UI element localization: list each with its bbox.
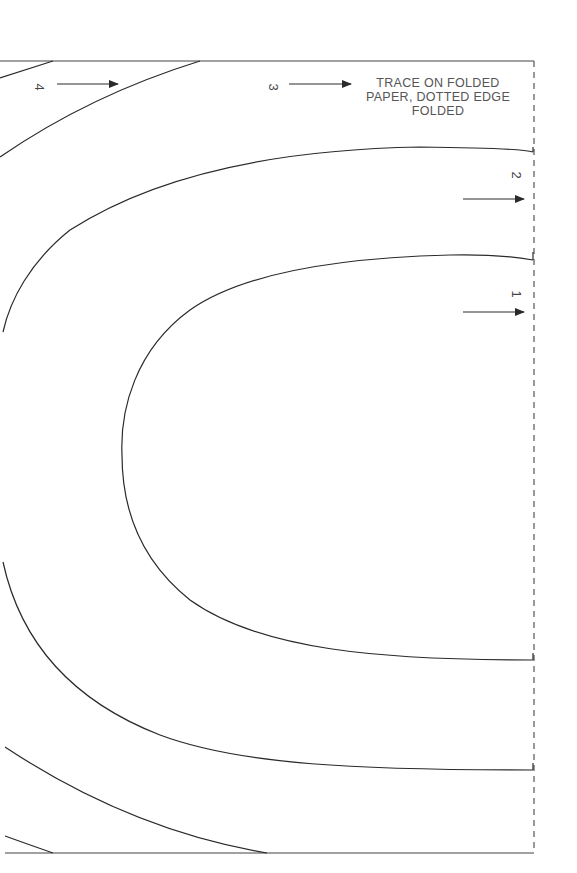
curve-size-2	[3, 147, 533, 770]
size-label-2: 2	[509, 168, 523, 182]
size-label-3: 3	[266, 80, 280, 94]
instruction-line-2: PAPER, DOTTED EDGE	[362, 90, 514, 104]
size-label-4: 4	[32, 80, 46, 94]
curve-size-4-bottom-small	[5, 836, 53, 853]
curve-size-4-bottom	[5, 747, 267, 853]
instruction-line-1: TRACE ON FOLDED	[362, 76, 514, 90]
instruction-line-3: FOLDED	[362, 104, 514, 118]
curve-size-4-top-small	[0, 61, 53, 78]
trace-instruction: TRACE ON FOLDED PAPER, DOTTED EDGE FOLDE…	[362, 76, 514, 118]
size-label-1: 1	[509, 287, 523, 301]
curve-size-4-top	[0, 61, 200, 157]
pattern-outline	[0, 0, 577, 873]
curve-size-1	[122, 255, 533, 660]
